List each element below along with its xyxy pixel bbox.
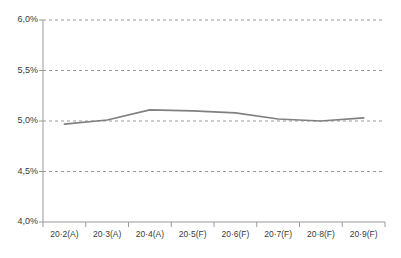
x-axis-tick-label: 20·3(A)	[86, 230, 129, 239]
x-axis-tick-label: 20·8(F)	[300, 230, 343, 239]
x-axis-tick-label: 20·7(F)	[257, 230, 300, 239]
x-axis-tick-labels: 20·2(A)20·3(A)20·4(A)20·5(F)20·6(F)20·7(…	[0, 0, 401, 258]
x-axis-tick-label: 20·2(A)	[43, 230, 86, 239]
x-axis-tick-label: 20·6(F)	[214, 230, 257, 239]
line-chart: 4,0%4,5%5,0%5,5%6,0% 20·2(A)20·3(A)20·4(…	[0, 0, 401, 258]
x-axis-tick-label: 20·5(F)	[171, 230, 214, 239]
x-axis-tick-label: 20·4(A)	[129, 230, 172, 239]
x-axis-tick-label: 20·9(F)	[342, 230, 385, 239]
